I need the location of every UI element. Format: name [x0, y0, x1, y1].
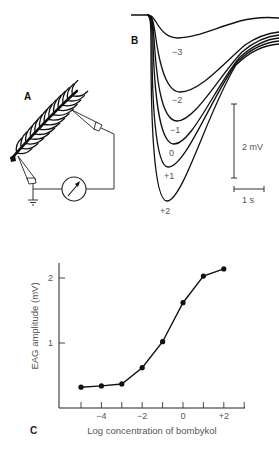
trace-label: −3	[172, 47, 182, 57]
circuit	[28, 177, 114, 205]
y-ticks: 12	[48, 273, 65, 348]
panel-label-a: A	[24, 91, 31, 102]
panel-a: A	[10, 80, 114, 205]
x-tick-label: +2	[219, 411, 229, 421]
data-point	[119, 381, 124, 386]
antenna-icon	[10, 80, 88, 162]
scale-bar-time-label: 1 s	[242, 195, 255, 205]
panel-b: B −3 −2 −1 0 +1 +2 2 mV	[131, 15, 279, 216]
series-line	[81, 269, 224, 387]
x-tick-label: −2	[137, 411, 147, 421]
trace-label: +1	[164, 171, 174, 181]
panel-label-b: B	[131, 35, 138, 46]
recording-electrode-right	[72, 110, 114, 189]
x-tick-label: −4	[96, 411, 106, 421]
voltmeter-icon	[62, 177, 86, 201]
trace-label: 0	[169, 148, 174, 158]
ground-icon	[28, 189, 38, 205]
y-tick-label: 2	[48, 273, 53, 283]
eag-traces	[131, 15, 279, 201]
x-ticks: −4−20+2	[81, 402, 244, 421]
trace-label: +2	[160, 206, 170, 216]
trace-minus-2	[147, 15, 279, 92]
recording-electrode-left	[18, 156, 36, 189]
data-point	[140, 365, 145, 370]
scale-bar-voltage-label: 2 mV	[242, 142, 263, 152]
scale-bar-time: 1 s	[234, 186, 264, 205]
panel-c: C −4−20+2 12 Log concentration of bombyk…	[29, 263, 245, 436]
scale-bar-voltage: 2 mV	[231, 104, 263, 178]
x-tick-label: 0	[180, 411, 185, 421]
trace-minus-1	[147, 15, 279, 121]
chart-axes: −4−20+2 12	[48, 263, 245, 421]
x-axis-title: Log concentration of bombykol	[87, 425, 216, 436]
y-axis-title: EAG amplitude (mV)	[29, 282, 40, 369]
y-tick-label: 1	[48, 338, 53, 348]
panel-label-c: C	[30, 425, 37, 436]
data-point	[160, 339, 165, 344]
data-point	[180, 300, 185, 305]
trace-label: −2	[172, 95, 182, 105]
trace-label: −1	[170, 125, 180, 135]
data-point	[221, 266, 226, 271]
figure: A	[0, 0, 279, 453]
data-point	[78, 385, 83, 390]
data-point	[201, 273, 206, 278]
data-series	[78, 266, 226, 390]
data-point	[99, 383, 104, 388]
